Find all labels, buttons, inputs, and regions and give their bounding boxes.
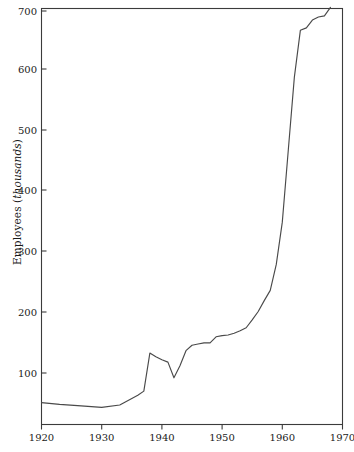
x-tick-label: 1940 (149, 432, 174, 443)
employees-line-series (42, 7, 331, 407)
y-tick-label: 700 (18, 6, 37, 17)
y-tick-label: 200 (18, 307, 37, 318)
line-chart-plot: 100 200 300 400 500 600 700 1920 1930 19… (0, 0, 354, 452)
x-tick-label: 1930 (89, 432, 114, 443)
y-tick-label: 100 (18, 368, 37, 379)
x-axis-tick-labels: 1920 1930 1940 1950 1960 1970 (29, 432, 354, 443)
x-tick-label: 1950 (209, 432, 234, 443)
x-tick-label: 1920 (29, 432, 54, 443)
y-axis-label-paren: ) (11, 139, 23, 143)
x-axis-ticks (42, 425, 343, 430)
plot-frame (42, 9, 343, 425)
y-axis-label-text: Employees ( (11, 199, 23, 265)
y-axis-ticks (42, 11, 47, 373)
y-axis-label: Employees (thousands) (11, 127, 23, 277)
x-tick-label: 1960 (270, 432, 295, 443)
y-tick-label: 600 (18, 64, 37, 75)
chart-figure: Employees (thousands) 100 200 300 400 50… (0, 0, 354, 452)
y-axis-label-unit: thousands (11, 143, 23, 199)
x-tick-label: 1970 (330, 432, 354, 443)
